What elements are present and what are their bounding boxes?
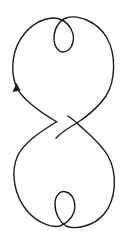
lower-lobe: [14, 122, 114, 228]
middle-crossing-strand: [68, 116, 77, 123]
knot-curve: [13, 17, 115, 228]
upper-lobe-left: [13, 17, 114, 138]
knot-diagram: [0, 0, 121, 246]
direction-arrow-icon: [13, 83, 21, 92]
